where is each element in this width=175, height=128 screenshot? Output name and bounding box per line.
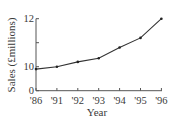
y-ticks: 01012	[24, 13, 40, 96]
x-tick-label: '96	[155, 95, 167, 106]
data-point	[77, 61, 80, 64]
data-point	[97, 57, 100, 60]
x-tick-label: '91	[51, 95, 63, 106]
x-tick-label: '93	[92, 95, 104, 106]
data-point	[118, 46, 121, 49]
y-axis-title: Sales (£millions)	[5, 17, 18, 92]
y-tick-label: 12	[24, 13, 35, 24]
x-tick-label: '86	[30, 95, 42, 106]
sales-line	[36, 19, 161, 69]
data-point	[56, 65, 59, 68]
data-point	[160, 17, 163, 20]
x-tick-label: '92	[72, 95, 84, 106]
data-markers	[35, 17, 163, 70]
x-axis-title: Year	[87, 106, 108, 118]
data-point	[35, 68, 38, 71]
x-tick-label: '94	[113, 95, 126, 106]
y-tick-label: 10	[24, 61, 35, 72]
x-tick-label: '95	[134, 95, 146, 106]
sales-line-chart: 01012 '86'91'92'93'94'95'96 Year Sales (…	[0, 0, 175, 128]
data-point	[139, 37, 142, 40]
